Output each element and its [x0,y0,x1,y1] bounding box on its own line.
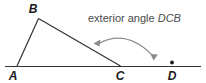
vertex-label-A: A [8,69,18,83]
arc-curve [98,38,153,56]
vertex-label-D: D [168,69,177,83]
figure-canvas: B A C D exterior angle DCB [0,0,206,83]
caption-prefix: exterior angle [88,12,158,24]
geometry-figure: B A C D exterior angle DCB [0,0,206,83]
triangle-side-AB [17,19,39,67]
vertex-label-C: C [116,69,125,83]
point-marker-D [170,61,174,65]
arc-arrowhead-right [151,54,159,61]
caption-angle-name: DCB [158,12,181,24]
exterior-angle-arc [94,38,159,60]
vertex-label-B: B [29,2,38,16]
exterior-angle-caption: exterior angle DCB [88,12,181,24]
triangle-side-BC [39,19,121,67]
arc-arrowhead-left [94,40,101,47]
